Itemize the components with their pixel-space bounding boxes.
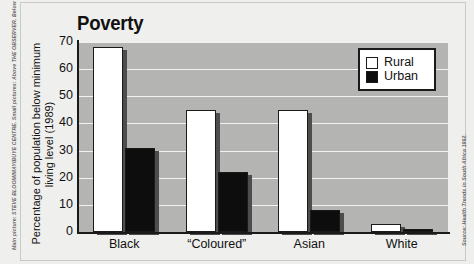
- bar-body: [186, 110, 216, 232]
- bar-urban-asian: [310, 210, 340, 232]
- y-axis-tick-label: 50: [47, 88, 73, 102]
- bar-urban-white: [403, 229, 433, 232]
- legend-label-urban: Urban: [384, 70, 418, 83]
- y-axis-tick-label: 0: [47, 224, 73, 238]
- y-axis-tick-label: 60: [47, 61, 73, 75]
- bar-rural-coloured: [186, 110, 216, 232]
- bar-rural-black: [93, 47, 123, 232]
- gridline: [78, 42, 448, 43]
- gridline: [78, 96, 448, 97]
- legend-item-urban: Urban: [366, 70, 428, 83]
- legend-label-rural: Rural: [384, 56, 414, 69]
- x-axis-category-label: White: [356, 237, 449, 251]
- panel-bottom-rule: [20, 260, 466, 261]
- bar-body: [218, 172, 248, 232]
- x-axis-line: [77, 232, 450, 234]
- legend-swatch-rural-icon: [366, 57, 378, 69]
- y-axis-line: [77, 40, 79, 234]
- source-credit-right: Source: Health Trends in South Africa 19…: [461, 134, 467, 246]
- legend-item-rural: Rural: [366, 56, 428, 69]
- x-axis-category-label: Asian: [263, 237, 356, 251]
- y-axis-tick-label: 30: [47, 143, 73, 157]
- chart-title: Poverty: [77, 12, 143, 35]
- photo-credit-left: Main picture: STEVE BLOOM/MAYIBUYE CENTR…: [11, 1, 17, 250]
- y-axis-title-line-1: Percentage of population below minimum: [30, 45, 43, 245]
- x-axis-category-label: “Coloured”: [171, 237, 264, 251]
- bar-urban-black: [125, 148, 155, 232]
- legend-swatch-urban-icon: [366, 71, 378, 83]
- bar-body: [371, 224, 401, 232]
- y-axis-tick-label: 70: [47, 34, 73, 48]
- y-axis-tick-label: 20: [47, 170, 73, 184]
- y-axis-tick-label: 10: [47, 197, 73, 211]
- y-axis-tick-label: 40: [47, 115, 73, 129]
- bar-urban-coloured: [218, 172, 248, 232]
- bar-body: [125, 148, 155, 232]
- bar-rural-white: [371, 224, 401, 232]
- x-axis-category-label: Black: [78, 237, 171, 251]
- gridline: [78, 123, 448, 124]
- bar-body: [403, 229, 433, 232]
- bar-body: [278, 110, 308, 232]
- bar-body: [310, 210, 340, 232]
- bar-body: [93, 47, 123, 232]
- chart-legend: Rural Urban: [358, 48, 436, 91]
- panel-left-edge: [20, 2, 21, 261]
- panel-top-rule: [20, 2, 466, 3]
- poverty-chart-figure: Main picture: STEVE BLOOM/MAYIBUYE CENTR…: [0, 0, 474, 264]
- bar-rural-asian: [278, 110, 308, 232]
